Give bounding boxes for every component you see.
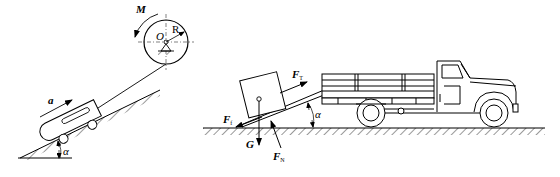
friction-label: Ff [222, 113, 232, 126]
acceleration-label: a [48, 94, 54, 106]
angle-label-right: α [315, 108, 321, 120]
moment-label: M [135, 3, 147, 15]
normal-label: FN [272, 150, 285, 163]
right-panel: α FT Ff G FN [203, 61, 545, 163]
drum: O R [138, 14, 194, 70]
physics-diagram: α a O R [0, 0, 560, 177]
radius-label: R [172, 23, 180, 35]
ramp-angle-marker: α [308, 103, 321, 127]
cart [37, 100, 105, 151]
angle-label-left: α [63, 145, 69, 157]
box [240, 72, 286, 118]
center-of-mass [257, 97, 261, 101]
tension-label: FT [291, 68, 303, 81]
truck [322, 61, 518, 127]
left-panel: α a O R [18, 3, 194, 160]
normal-force-arrow: FN [271, 121, 285, 163]
gravity-label: G [246, 138, 254, 150]
tension-force-arrow: FT [280, 68, 307, 93]
center-label: O [156, 30, 164, 42]
cable [98, 64, 166, 108]
ground [203, 128, 545, 135]
